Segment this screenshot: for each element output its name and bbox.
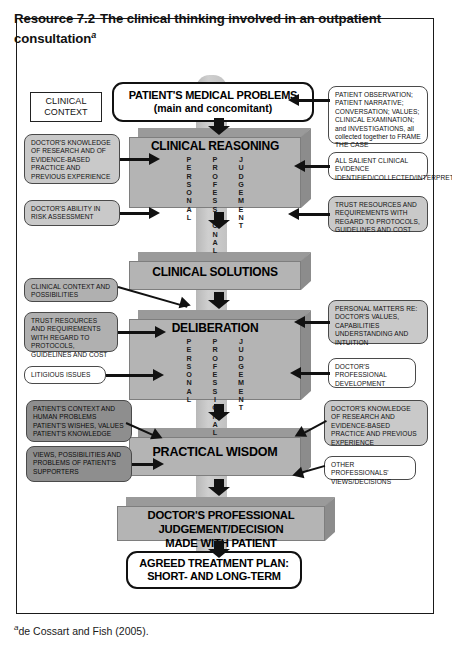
practical-wisdom-label: PRACTICAL WISDOM — [129, 445, 301, 459]
arrow-down-3 — [208, 292, 230, 309]
clinical-solutions-label: CLINICAL SOLUTIONS — [129, 265, 301, 279]
agreed-plan-line2: SHORT- AND LONG-TERM — [147, 570, 281, 583]
note-views-possibilities: VIEWS, POSSIBILITIES AND PROBLEMS OF PAT… — [26, 446, 132, 482]
deliberation-label: DELIBERATION — [129, 321, 301, 335]
clinical-reasoning-label: CLINICAL REASONING — [129, 139, 301, 153]
note-patient-observation: PATIENT OBSERVATION; PATIENT NARRATIVE; … — [328, 86, 428, 144]
page-title: Resource 7.2The clinical thinking involv… — [14, 10, 406, 47]
note-doctors-knowledge-left: DOCTOR'S KNOWLEDGE OF RESEARCH AND OF EV… — [24, 134, 120, 184]
arrow-down-4 — [208, 404, 230, 421]
agreed-plan-line1: AGREED TREATMENT PLAN: — [139, 557, 288, 570]
note-litigious-issues: LITIGIOUS ISSUES — [24, 366, 106, 384]
note-other-professionals: OTHER PROFESSIONALS' VIEWS/DECISIONS — [324, 456, 416, 480]
note-clinical-context-text: CLINICAL CONTEXT — [44, 96, 87, 118]
node-clinical-reasoning: CLINICAL REASONING PERSONAL PROFESSIONAL… — [129, 128, 311, 208]
note-clinical-context: CLINICAL CONTEXT — [30, 92, 102, 122]
slab-top — [126, 497, 335, 506]
arrow-down-1 — [208, 118, 230, 135]
note-personal-matters: PERSONAL MATTERS RE: DOCTOR'S VALUES, CA… — [328, 300, 428, 344]
note-patients-context: PATIENT'S CONTEXT AND HUMAN PROBLEMS PAT… — [26, 400, 132, 442]
node-clinical-solutions: CLINICAL SOLUTIONS — [129, 252, 311, 290]
node-deliberation: DELIBERATION PERSONAL PROFESSIONAL JUDGE… — [129, 310, 311, 400]
slab-top — [138, 310, 311, 319]
arrow-down-2 — [208, 212, 230, 229]
arrow-down-6 — [208, 541, 230, 558]
footnote-text: de Cossart and Fish (2005). — [18, 624, 148, 636]
note-salient-evidence: ALL SALIENT CLINICAL EVIDENCE IDENTIFIED… — [328, 152, 428, 180]
note-trust-resources-right: TRUST RESOURCES AND REQUIREMENTS WITH RE… — [328, 196, 428, 232]
note-clinical-context-possibilities: CLINICAL CONTEXT AND POSSIBILITIES — [24, 278, 118, 302]
doctor-decision-line1: DOCTOR'S PROFESSIONAL JUDGEMENT/DECISION — [117, 508, 325, 536]
note-doctors-knowledge-right: DOCTOR'S KNOWLEDGE OF RESEARCH AND EVIDE… — [324, 400, 428, 446]
resource-label: Resource 7.2 — [14, 10, 100, 27]
diagram-page: Resource 7.2The clinical thinking involv… — [0, 0, 452, 646]
title-footnote-marker: a — [91, 30, 96, 40]
patient-problems-line1: PATIENT'S MEDICAL PROBLEMS — [129, 89, 298, 102]
footnote: ade Cossart and Fish (2005). — [14, 623, 149, 637]
note-professional-development: DOCTOR'S PROFESSIONAL DEVELOPMENT — [328, 358, 416, 388]
node-doctor-professional-judgement: DOCTOR'S PROFESSIONAL JUDGEMENT/DECISION… — [117, 497, 335, 541]
arrow-down-5 — [208, 479, 230, 496]
slab-top — [138, 252, 311, 261]
patient-problems-line2: (main and concomitant) — [154, 102, 272, 115]
note-doctors-risk-assessment: DOCTOR'S ABILITY IN RISK ASSESSMENT — [24, 200, 120, 226]
node-patient-medical-problems: PATIENT'S MEDICAL PROBLEMS (main and con… — [112, 82, 314, 122]
note-trust-resources-left: TRUST RESOURCES AND REQUIREMENTS WITH RE… — [24, 312, 118, 352]
